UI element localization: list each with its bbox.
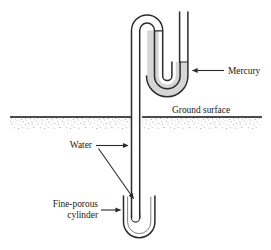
label-mercury: Mercury [228, 66, 261, 76]
mercury-fill [147, 31, 187, 96]
label-water: Water [70, 140, 93, 150]
soil-stipple-left [10, 118, 132, 130]
mercury-fill-group [147, 31, 187, 96]
label-fine-porous-line2: cylinder [67, 210, 99, 220]
standpipe-cup-termination [132, 213, 140, 222]
soil-stipple-right [142, 118, 260, 130]
label-ground-surface: Ground surface [172, 105, 230, 115]
tensiometer-figure: Mercury Ground surface Water Fine-porous… [0, 0, 271, 250]
label-fine-porous-line1: Fine-porous [53, 199, 99, 209]
tensiometer-diagram: Mercury Ground surface Water Fine-porous… [0, 0, 271, 250]
water-leader-diagonal [99, 149, 134, 199]
ground-layer [10, 117, 262, 129]
